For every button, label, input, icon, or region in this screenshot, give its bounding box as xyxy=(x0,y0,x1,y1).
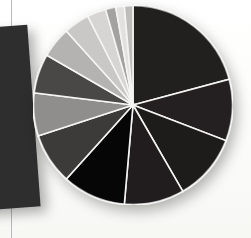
pie-chart-svg xyxy=(33,5,233,205)
pie-chart xyxy=(33,5,233,205)
figure-canvas xyxy=(0,0,251,238)
